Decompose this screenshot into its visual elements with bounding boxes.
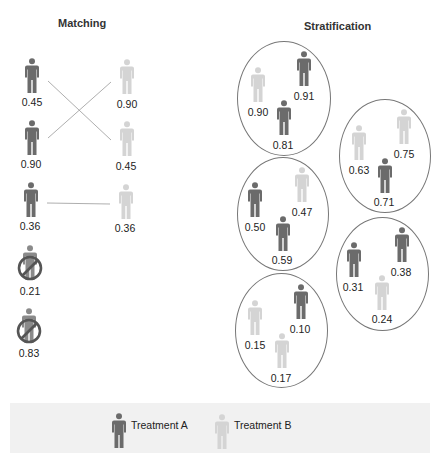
propensity-value: 0.17 — [263, 372, 299, 384]
person-icon-treatment-b — [374, 275, 390, 311]
propensity-value: 0.50 — [237, 221, 273, 233]
excluded-person — [17, 245, 43, 285]
propensity-value: 0.21 — [12, 285, 48, 297]
person-icon-treatment-a — [394, 227, 410, 263]
person-icon-treatment-a — [296, 51, 312, 87]
person-icon-treatment-b — [118, 184, 134, 220]
propensity-value: 0.83 — [11, 347, 47, 359]
person-icon-treatment-a — [24, 58, 40, 94]
person-icon-treatment-a — [247, 182, 263, 218]
prohibited-icon — [17, 254, 43, 284]
person-icon-treatment-b — [274, 333, 290, 369]
person-icon-treatment-b — [119, 59, 135, 95]
person-icon-treatment-a — [346, 242, 362, 278]
propensity-value: 0.36 — [12, 220, 48, 232]
propensity-value: 0.59 — [264, 254, 300, 266]
propensity-value: 0.81 — [265, 139, 301, 151]
propensity-value: 0.90 — [240, 106, 276, 118]
person-icon-treatment-b — [294, 167, 310, 203]
propensity-value: 0.90 — [109, 98, 145, 110]
person-icon-treatment-b — [250, 67, 266, 103]
person-icon-treatment-a — [275, 216, 291, 252]
person-icon-treatment-a — [23, 182, 39, 218]
person-icon-treatment-b — [119, 121, 135, 157]
propensity-value: 0.45 — [14, 96, 50, 108]
legend-label-treatment-b: Treatment B — [234, 419, 291, 431]
propensity-value: 0.45 — [108, 160, 144, 172]
excluded-person — [16, 308, 42, 348]
person-icon-treatment-a — [24, 120, 40, 156]
propensity-value: 0.31 — [335, 281, 371, 293]
propensity-value: 0.24 — [364, 313, 400, 325]
propensity-value: 0.63 — [341, 164, 377, 176]
person-icon-treatment-b — [247, 300, 263, 336]
person-icon-treatment-b — [351, 125, 367, 161]
propensity-value: 0.15 — [237, 339, 273, 351]
person-icon-treatment-a — [111, 413, 127, 449]
legend-label-treatment-a: Treatment A — [131, 419, 188, 431]
propensity-value: 0.90 — [13, 158, 49, 170]
propensity-value: 0.36 — [107, 222, 143, 234]
person-icon-treatment-b — [214, 414, 230, 450]
person-icon-treatment-b — [396, 109, 412, 145]
person-icon-treatment-a — [276, 100, 292, 136]
person-icon-treatment-a — [377, 158, 393, 194]
prohibited-icon — [16, 317, 42, 347]
person-icon-treatment-a — [293, 284, 309, 320]
propensity-value: 0.71 — [366, 196, 402, 208]
